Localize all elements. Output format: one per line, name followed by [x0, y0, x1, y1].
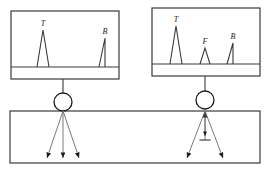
figure-canvas: TBTFB: [0, 0, 265, 175]
probe-transducer[interactable]: [54, 93, 72, 111]
scope-peak-label-F: F: [202, 37, 208, 46]
scope-peak-label-T: T: [41, 19, 46, 28]
scope-peak-label-B: B: [103, 27, 108, 36]
scope-bezel: [11, 11, 119, 79]
scope-peak-label-T: T: [174, 15, 179, 24]
scope-peak-label-B: B: [231, 32, 236, 41]
probe-transducer[interactable]: [196, 91, 214, 109]
scope-no-flaw: TB: [11, 11, 119, 79]
scope-with-flaw: TFB: [152, 8, 260, 76]
scope-panels-group: TBTFB: [11, 8, 260, 79]
ndt-schematic-svg: TBTFB: [0, 0, 265, 175]
